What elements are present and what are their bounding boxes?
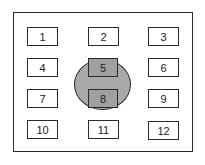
cell-label: 2	[100, 31, 106, 43]
cell-label: 9	[160, 93, 166, 105]
grid-cell-4: 4	[27, 58, 58, 77]
grid-cell-7: 7	[27, 89, 58, 108]
cell-label: 10	[36, 124, 48, 136]
cell-label: 7	[39, 93, 45, 105]
cell-label: 6	[160, 62, 166, 74]
cell-label: 11	[98, 124, 109, 136]
grid-cell-12: 12	[148, 121, 179, 140]
cell-label: 8	[100, 93, 106, 105]
grid-cell-8: 8	[88, 89, 118, 108]
grid-cell-5: 5	[88, 58, 118, 77]
cell-label: 4	[39, 62, 45, 74]
grid-cell-3: 3	[148, 27, 179, 46]
cell-label: 5	[100, 62, 106, 74]
grid-cell-9: 9	[148, 89, 179, 108]
grid-cell-10: 10	[27, 120, 58, 139]
grid-cell-2: 2	[88, 27, 119, 46]
cell-label: 3	[160, 31, 166, 43]
grid-cell-1: 1	[27, 27, 58, 46]
grid-cell-11: 11	[88, 120, 119, 139]
cell-label: 12	[157, 125, 169, 137]
cell-label: 1	[39, 31, 45, 43]
grid-cell-6: 6	[148, 58, 179, 77]
